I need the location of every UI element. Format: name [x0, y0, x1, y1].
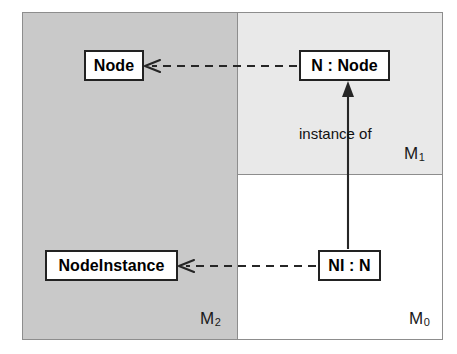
divider-horizontal — [238, 174, 443, 175]
region-label-m2-subscript: 2 — [215, 316, 221, 328]
box-node[interactable]: Node — [84, 50, 144, 81]
region-label-m0: M0 — [409, 309, 429, 329]
region-label-m0-letter: M — [409, 309, 423, 328]
box-nodeinstance-label: NodeInstance — [58, 257, 164, 275]
region-label-m1-letter: M — [404, 144, 418, 163]
box-ni-n-label: NI : N — [328, 257, 370, 275]
divider-vertical — [237, 12, 238, 340]
region-label-m1: M1 — [404, 144, 424, 164]
box-node-label: Node — [94, 57, 134, 75]
metamodel-diagram: Node N : Node NodeInstance NI : N instan… — [0, 0, 457, 354]
box-ni-n[interactable]: NI : N — [318, 250, 381, 281]
region-label-m2-letter: M — [200, 309, 214, 328]
region-label-m0-subscript: 0 — [424, 316, 430, 328]
box-nodeinstance[interactable]: NodeInstance — [45, 250, 178, 281]
region-label-m2: M2 — [200, 309, 220, 329]
box-n-node[interactable]: N : Node — [299, 50, 390, 81]
edge-label-instance-of: instance of — [299, 125, 372, 142]
box-n-node-label: N : Node — [311, 57, 378, 75]
region-label-m1-subscript: 1 — [419, 151, 425, 163]
